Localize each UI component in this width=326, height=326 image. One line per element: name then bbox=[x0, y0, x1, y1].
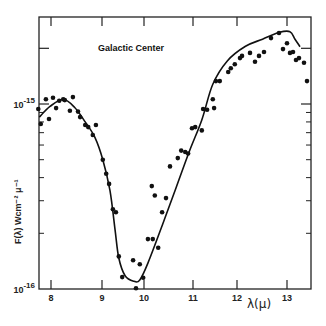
x-tick-label: 11 bbox=[188, 293, 198, 303]
data-point bbox=[47, 117, 52, 122]
data-point bbox=[44, 97, 49, 102]
data-point bbox=[138, 262, 143, 267]
data-point bbox=[68, 108, 73, 113]
data-point bbox=[107, 182, 112, 187]
data-point bbox=[186, 151, 191, 156]
data-point bbox=[131, 258, 136, 263]
data-point bbox=[305, 79, 310, 84]
data-point bbox=[200, 128, 205, 133]
data-point bbox=[201, 107, 206, 112]
data-point bbox=[39, 122, 44, 127]
data-point bbox=[160, 210, 165, 215]
data-point bbox=[36, 107, 41, 112]
data-point bbox=[78, 115, 83, 120]
data-point bbox=[117, 254, 122, 259]
x-tick-label: 10 bbox=[139, 293, 149, 303]
data-point bbox=[104, 171, 109, 176]
data-point bbox=[51, 96, 56, 101]
data-point bbox=[297, 56, 302, 61]
data-point bbox=[205, 108, 210, 113]
data-point bbox=[262, 50, 267, 55]
data-point bbox=[86, 125, 91, 130]
data-point bbox=[54, 106, 59, 111]
chart: 891011121310-1610-15 Galactic Center λ(μ… bbox=[0, 0, 326, 326]
x-tick-label: 8 bbox=[48, 293, 53, 303]
data-point bbox=[257, 54, 262, 59]
data-point bbox=[101, 157, 106, 162]
data-point bbox=[150, 184, 155, 189]
data-point bbox=[146, 237, 151, 242]
data-point bbox=[291, 50, 296, 55]
x-tick-label: 13 bbox=[282, 293, 292, 303]
data-point bbox=[94, 123, 99, 128]
data-point bbox=[285, 41, 290, 46]
data-points bbox=[36, 31, 309, 291]
data-point bbox=[269, 36, 274, 41]
chart-title: Galactic Center bbox=[98, 43, 165, 53]
data-point bbox=[151, 237, 156, 242]
data-point bbox=[164, 196, 169, 201]
data-point bbox=[193, 125, 198, 130]
data-point bbox=[253, 60, 258, 65]
data-point bbox=[248, 51, 253, 56]
data-point bbox=[233, 62, 238, 67]
data-point bbox=[302, 61, 307, 66]
data-point bbox=[168, 164, 173, 169]
y-tick-label: 10-16 bbox=[13, 281, 35, 295]
data-point bbox=[91, 133, 96, 138]
data-point bbox=[212, 106, 217, 111]
data-point bbox=[179, 148, 184, 153]
data-point bbox=[226, 70, 231, 75]
data-point bbox=[281, 47, 286, 52]
axis-tick-labels: 891011121310-1610-15 bbox=[13, 96, 292, 303]
x-tick-label: 9 bbox=[99, 293, 104, 303]
data-point bbox=[120, 275, 125, 280]
data-point bbox=[141, 276, 146, 281]
data-point bbox=[277, 31, 282, 36]
data-point bbox=[156, 246, 161, 251]
plot-frame bbox=[39, 17, 311, 289]
data-point bbox=[76, 109, 81, 114]
x-axis-label: λ(μ) bbox=[247, 297, 271, 311]
data-point bbox=[229, 66, 234, 71]
y-axis-label: F(λ) Wcm⁻² μ⁻¹ bbox=[13, 179, 23, 244]
data-point bbox=[176, 156, 181, 161]
data-point bbox=[71, 95, 76, 100]
y-tick-label: 10-15 bbox=[13, 96, 35, 110]
x-tick-label: 12 bbox=[232, 293, 242, 303]
data-point bbox=[63, 98, 68, 103]
data-point bbox=[57, 99, 62, 104]
data-point bbox=[240, 54, 245, 59]
model-curve bbox=[39, 31, 300, 282]
data-point bbox=[114, 210, 119, 215]
axis-ticks bbox=[39, 17, 311, 289]
data-point bbox=[134, 286, 139, 291]
data-point bbox=[153, 193, 158, 198]
data-point bbox=[211, 97, 216, 102]
data-point bbox=[218, 79, 223, 84]
